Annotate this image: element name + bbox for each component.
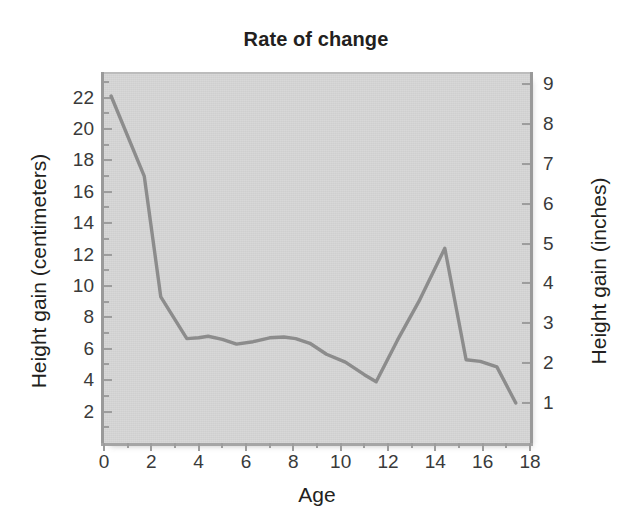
- y-axis-left-tick-label: 18: [54, 150, 94, 169]
- y-axis-right-tick-label: 6: [543, 194, 573, 213]
- x-axis-tick-label: 6: [224, 452, 268, 471]
- y-axis-left-tick-label: 4: [54, 370, 94, 389]
- y-axis-left-tick-label: 22: [54, 88, 94, 107]
- x-axis-tick-label: 16: [461, 452, 505, 471]
- y-axis-left-tick-label: 8: [54, 307, 94, 326]
- x-axis-tick: [292, 443, 294, 451]
- x-axis-tick: [482, 443, 484, 451]
- y-axis-right-tick-label: 3: [543, 313, 573, 332]
- x-axis-tick: [245, 443, 247, 451]
- x-axis-tick-label: 10: [319, 452, 363, 471]
- y-axis-left-tick-label: 6: [54, 339, 94, 358]
- rate-of-change-chart: Rate of change 246810121416182022 123456…: [0, 0, 632, 527]
- x-axis-minor-tick: [458, 443, 460, 448]
- y-axis-left-title: Height gain (centimeters): [27, 101, 51, 441]
- x-axis-tick-label: 18: [508, 452, 552, 471]
- data-series-plot: [104, 74, 530, 443]
- x-axis-minor-tick: [269, 443, 271, 448]
- x-axis-title: Age: [104, 483, 530, 507]
- x-axis-minor-tick: [411, 443, 413, 448]
- y-axis-right-title: Height gain (inches): [587, 101, 611, 441]
- y-axis-left-tick-label: 16: [54, 182, 94, 201]
- x-axis-tick-label: 8: [271, 452, 315, 471]
- y-axis-left-tick-label: 2: [54, 402, 94, 421]
- x-axis-minor-tick: [127, 443, 129, 448]
- x-axis-tick-label: 14: [413, 452, 457, 471]
- x-axis-tick: [529, 443, 531, 451]
- x-axis-tick: [150, 443, 152, 451]
- x-axis-minor-tick: [221, 443, 223, 448]
- y-axis-right-tick-labels: 123456789: [543, 0, 577, 527]
- x-axis-minor-tick: [505, 443, 507, 448]
- x-axis-tick: [340, 443, 342, 451]
- x-axis-tick: [387, 443, 389, 451]
- x-axis-tick: [434, 443, 436, 451]
- y-axis-left-tick-label: 12: [54, 245, 94, 264]
- x-axis-tick-label: 12: [366, 452, 410, 471]
- y-axis-right-tick-label: 9: [543, 74, 573, 93]
- y-axis-right-tick-label: 2: [543, 353, 573, 372]
- y-axis-left-tick-label: 20: [54, 119, 94, 138]
- x-axis-minor-tick: [363, 443, 365, 448]
- x-axis-tick-label: 0: [82, 452, 126, 471]
- y-axis-left-tick-labels: 246810121416182022: [50, 0, 94, 527]
- x-axis-tick: [198, 443, 200, 451]
- y-axis-left-tick-label: 14: [54, 213, 94, 232]
- chart-title: Rate of change: [0, 28, 632, 51]
- x-axis-minor-tick: [316, 443, 318, 448]
- y-axis-right-tick-label: 8: [543, 114, 573, 133]
- height-gain-line: [111, 96, 516, 403]
- y-axis-right-tick-label: 5: [543, 234, 573, 253]
- y-axis-right-tick-label: 7: [543, 154, 573, 173]
- y-axis-left-tick-label: 10: [54, 276, 94, 295]
- y-axis-right-tick-label: 1: [543, 393, 573, 412]
- x-axis-tick-label: 4: [177, 452, 221, 471]
- y-axis-right-tick-label: 4: [543, 273, 573, 292]
- x-axis-tick-label: 2: [129, 452, 173, 471]
- x-axis-tick: [103, 443, 105, 451]
- axis-spine-right: [530, 72, 533, 445]
- x-axis-minor-tick: [174, 443, 176, 448]
